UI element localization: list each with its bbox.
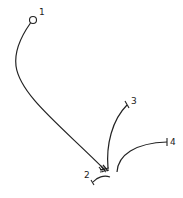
curve-4 — [117, 142, 167, 172]
diagram-canvas: 1 2 3 4 — [0, 0, 183, 198]
line-2: 2 — [84, 170, 110, 185]
curve-1 — [16, 23, 105, 170]
line-4: 4 — [117, 137, 176, 172]
line-1: 1 — [16, 7, 109, 172]
circle-endpoint-1 — [30, 17, 37, 24]
line-3: 3 — [108, 96, 137, 168]
label-2: 2 — [84, 170, 90, 180]
label-3: 3 — [131, 96, 137, 106]
curve-2 — [93, 176, 110, 182]
curve-3 — [108, 105, 127, 168]
label-4: 4 — [170, 137, 176, 147]
label-1: 1 — [39, 7, 45, 17]
